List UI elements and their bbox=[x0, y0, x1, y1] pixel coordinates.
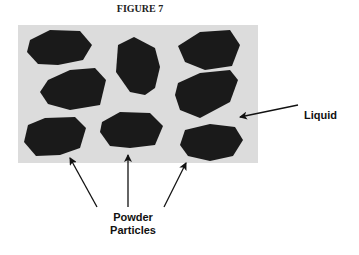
particle-arrow-right bbox=[164, 163, 186, 207]
liquid-label: Liquid bbox=[304, 109, 337, 122]
powder-label-line2: Particles bbox=[105, 224, 161, 237]
powder-label-line1: Powder bbox=[105, 211, 161, 224]
powder-particles-label: Powder Particles bbox=[105, 211, 161, 237]
figure-diagram bbox=[0, 0, 359, 255]
particle-arrow-left bbox=[70, 158, 97, 207]
